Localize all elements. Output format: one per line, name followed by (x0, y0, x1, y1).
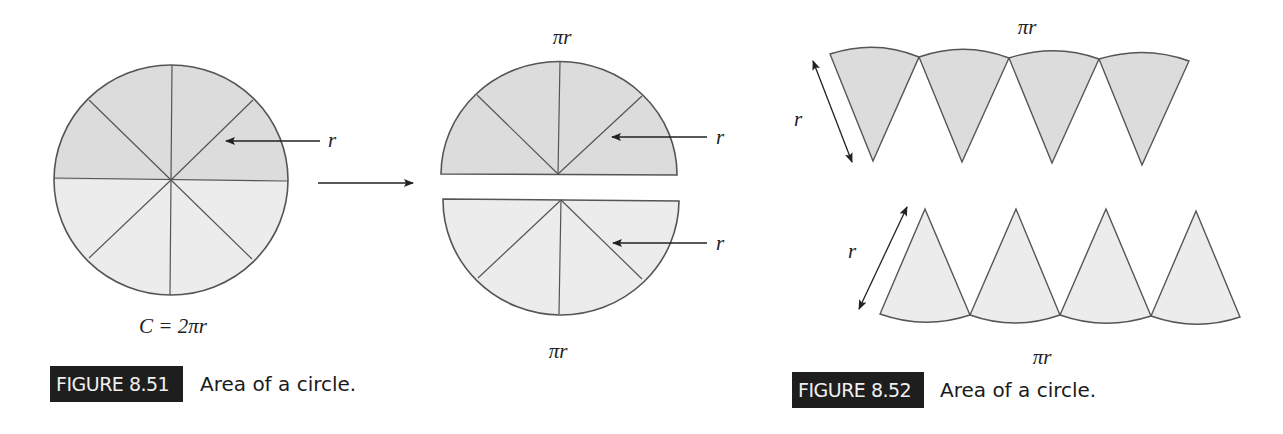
lower-sector-2 (970, 209, 1060, 323)
upper-sector-1 (830, 47, 919, 161)
full-circle: r C = 2πr (54, 65, 337, 338)
lower-sector-4 (1151, 211, 1240, 324)
lower-arc-label: πr (549, 339, 569, 363)
upper-sector-2 (919, 49, 1009, 162)
split-halves: πr πr r r (441, 25, 725, 363)
figure-label-8-52: FIGURE 8.52 (792, 372, 924, 408)
upper-sector-4 (1099, 52, 1189, 165)
lower-sector-3 (1060, 209, 1151, 323)
figure-caption-8-51: Area of a circle. (200, 366, 356, 402)
figure-caption-8-52: Area of a circle. (940, 372, 1096, 408)
circumference-label: C = 2πr (139, 314, 208, 338)
upper-radius-label: r (716, 125, 725, 149)
lower-radius-label: r (716, 231, 725, 255)
radius-label: r (328, 128, 337, 152)
lower-row-radius-label: r (848, 239, 857, 263)
lower-sector-1 (880, 209, 970, 322)
upper-sector-row (830, 47, 1189, 165)
upper-sector-3 (1009, 51, 1099, 163)
lower-sector-row (880, 209, 1240, 324)
upper-row-radius-label: r (794, 107, 803, 131)
diagram-canvas: r C = 2πr πr πr r r (0, 0, 1283, 434)
upper-arc-label: πr (553, 25, 573, 49)
lower-row-arc-label: πr (1033, 345, 1053, 369)
figure-label-8-51: FIGURE 8.51 (50, 366, 183, 402)
upper-row-arc-label: πr (1018, 15, 1038, 39)
